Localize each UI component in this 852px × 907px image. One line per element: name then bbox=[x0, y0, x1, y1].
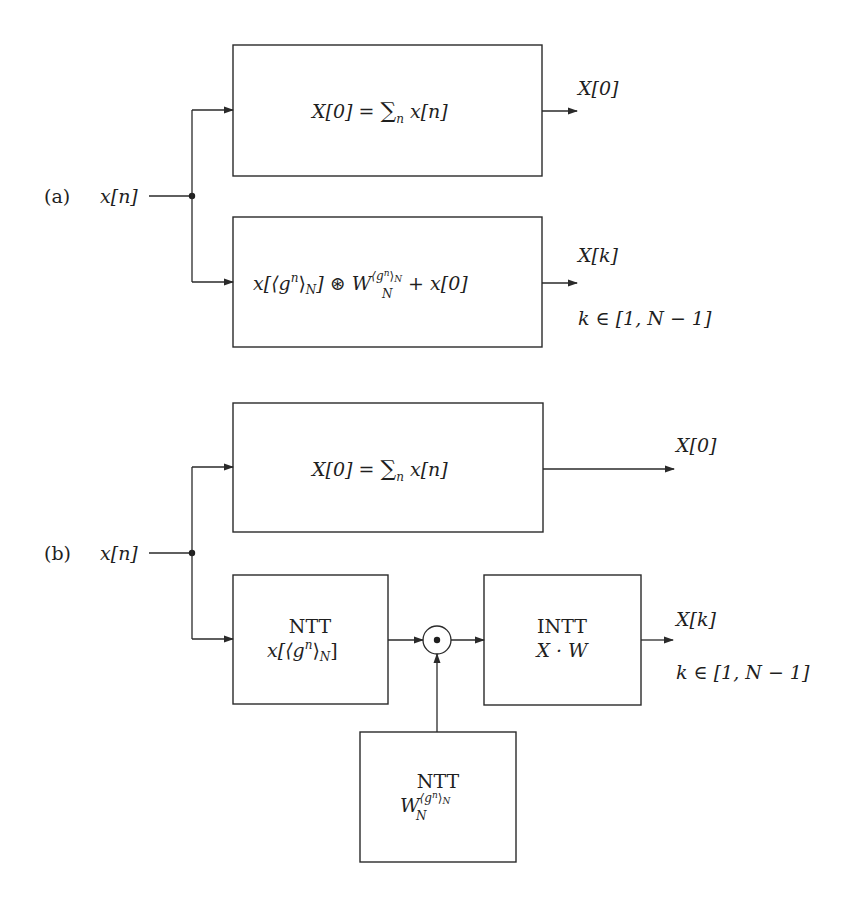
part-b-ntt-input-title: NTT bbox=[289, 615, 332, 637]
part-b-intt-expression: X · W bbox=[534, 639, 589, 661]
part-b: (b) x[n] X[0] = ∑n x[n] X[0] NTT x[⟨gn⟩N… bbox=[44, 403, 810, 862]
part-b-intt-output-range: k ∈ [1, N − 1] bbox=[676, 661, 810, 683]
part-a-conv-expression: x[⟨gn⟩N] ⊛ W⟨gn⟩N + x[0] bbox=[253, 268, 468, 297]
part-a-dc-expression: X[0] = ∑n x[n] bbox=[310, 98, 448, 126]
part-b-input-label: x[n] bbox=[100, 542, 138, 564]
part-b-label: (b) bbox=[44, 542, 71, 564]
part-a-input-label: x[n] bbox=[100, 185, 138, 207]
multiplier-dot-icon bbox=[434, 637, 440, 643]
diagram-canvas: (a) x[n] X[0] = ∑n x[n] X[0] x[⟨gn⟩N] ⊛ … bbox=[0, 0, 852, 907]
part-a-conv-w-subscript: N bbox=[381, 287, 393, 301]
part-a-dc-output-label: X[0] bbox=[576, 77, 619, 99]
part-b-ntt-input-expression: x[⟨gn⟩N] bbox=[267, 638, 338, 664]
part-a-conv-output-label: X[k] bbox=[576, 244, 618, 266]
part-a: (a) x[n] X[0] = ∑n x[n] X[0] x[⟨gn⟩N] ⊛ … bbox=[44, 45, 712, 347]
part-b-pointwise-multiplier bbox=[423, 626, 451, 654]
part-a-conv-output-range: k ∈ [1, N − 1] bbox=[578, 307, 712, 329]
part-b-intt-output-label: X[k] bbox=[674, 608, 716, 630]
part-b-intt-title: INTT bbox=[537, 615, 587, 637]
part-b-ntt-twiddle-subscript: N bbox=[415, 809, 427, 823]
part-a-label: (a) bbox=[44, 185, 70, 207]
part-b-ntt-twiddle-title: NTT bbox=[417, 770, 460, 792]
part-b-dc-expression: X[0] = ∑n x[n] bbox=[310, 456, 448, 484]
part-b-dc-output-label: X[0] bbox=[674, 434, 717, 456]
